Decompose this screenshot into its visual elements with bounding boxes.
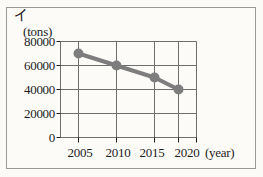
ytick-label-20000: 20000 — [24, 106, 55, 121]
xtick-label-2015: 2015 — [140, 145, 165, 160]
ytick-label-40000: 40000 — [24, 82, 55, 97]
xtick-label-2020: 2020 — [175, 145, 200, 160]
ytick-label-0: 0 — [49, 130, 55, 145]
x-axis-ticks — [79, 138, 197, 143]
ytick-label-80000: 80000 — [24, 34, 55, 49]
xtick-label-2005: 2005 — [68, 145, 93, 160]
data-point-2010 — [112, 61, 122, 71]
data-point-2020 — [174, 85, 184, 95]
data-point-2015 — [150, 73, 160, 83]
data-point-2005 — [74, 49, 84, 59]
ytick-label-60000: 60000 — [24, 58, 55, 73]
y-axis-ticks — [57, 42, 61, 138]
chart-figure: イ (tons) — [0, 0, 263, 177]
xtick-label-2010: 2010 — [106, 145, 131, 160]
x-axis-unit-label: (year) — [205, 145, 234, 160]
line-chart-plot: 80000 60000 40000 20000 0 2005 2010 2015… — [0, 0, 263, 177]
